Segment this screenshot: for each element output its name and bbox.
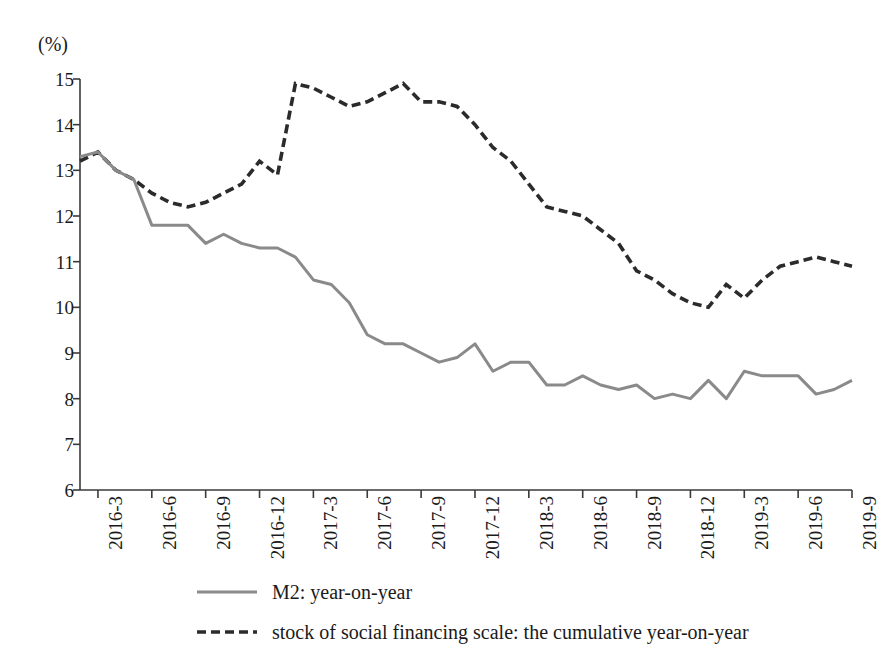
legend-label-m2: M2: year-on-year [272, 582, 412, 602]
chart-legend: M2: year-on-year stock of social financi… [0, 572, 886, 652]
chart-page: (%) 1514131211109876 2016-32016-62016-92… [0, 0, 886, 672]
x-axis-tick-label: 2019-6 [806, 496, 825, 550]
x-axis-tick-label: 2019-9 [860, 496, 879, 550]
x-axis-tick-label: 2018-12 [698, 496, 717, 559]
x-axis-tick-label: 2019-3 [752, 496, 771, 550]
solid-line-swatch [196, 585, 258, 599]
legend-label-social-financing: stock of social financing scale: the cum… [272, 622, 749, 642]
legend-item-social-financing: stock of social financing scale: the cum… [0, 612, 886, 652]
x-axis-tick-label: 2016-9 [214, 496, 233, 550]
x-axis-tick-label: 2018-6 [591, 496, 610, 550]
x-axis-tick-label: 2016-3 [106, 496, 125, 550]
x-axis-tick-label: 2017-12 [483, 496, 502, 559]
x-axis-tick-label: 2018-3 [537, 496, 556, 550]
x-axis-tick-label: 2018-9 [645, 496, 664, 550]
x-axis-tick-label: 2017-9 [429, 496, 448, 550]
x-axis-tick-label: 2016-6 [160, 496, 179, 550]
x-axis-tick-label: 2017-6 [375, 496, 394, 550]
x-axis-tick-label: 2016-12 [268, 496, 287, 559]
x-axis-tick-label: 2017-3 [321, 496, 340, 550]
legend-item-m2: M2: year-on-year [0, 572, 886, 612]
dashed-line-swatch [196, 625, 258, 639]
